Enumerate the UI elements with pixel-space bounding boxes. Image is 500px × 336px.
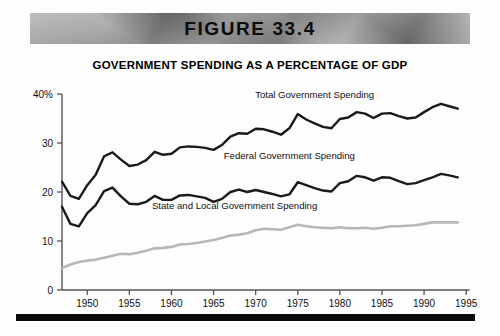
x-tick-label: 1950 [76,298,99,309]
series-label: Federal Government Spending [224,150,355,161]
x-tick-label: 1975 [287,298,310,309]
series-line [62,222,458,268]
x-tick-label: 1985 [371,298,394,309]
y-axis-ticks: 010203040% [33,89,62,296]
y-tick-label: 20 [42,187,54,198]
y-tick-label: 0 [47,285,53,296]
bottom-rule [16,314,475,321]
y-tick-label: 30 [42,138,54,149]
y-tick-label: 40% [33,89,53,100]
y-tick-label: 10 [42,236,54,247]
x-axis-ticks: 1950195519601965197019751980198519901995 [76,290,478,309]
x-tick-label: 1955 [118,298,141,309]
series-label: Total Government Spending [255,89,374,100]
x-tick-label: 1980 [329,298,352,309]
data-series-group [62,104,458,268]
series-label: State and Local Government Spending [152,200,317,211]
x-tick-label: 1965 [202,298,225,309]
x-tick-label: 1990 [413,298,436,309]
figure-container: FIGURE 33.4 GOVERNMENT SPENDING AS A PER… [0,0,500,336]
chart-plot-area: 010203040% 19501955196019651970197519801… [0,0,500,336]
line-chart-svg: 010203040% 19501955196019651970197519801… [0,0,500,336]
x-tick-label: 1995 [455,298,478,309]
x-tick-label: 1970 [245,298,268,309]
x-tick-label: 1960 [160,298,183,309]
